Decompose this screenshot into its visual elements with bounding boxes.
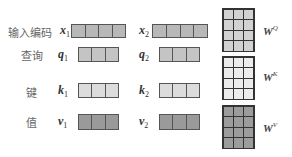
- matrix-wv: [222, 105, 255, 149]
- vector-k1: [78, 83, 119, 98]
- vector-q2: [159, 47, 200, 62]
- vector-x2: [152, 24, 208, 38]
- vector-v1: [78, 114, 119, 130]
- matrix-wq: [222, 8, 255, 52]
- matrix-label-wv: WV: [263, 121, 277, 134]
- var-q2: q2: [139, 47, 149, 63]
- row-label-key: 键: [26, 84, 37, 100]
- var-v1: v1: [58, 114, 67, 130]
- vector-v2: [159, 114, 200, 130]
- vector-k2: [159, 83, 200, 98]
- matrix-label-wq: WQ: [263, 24, 278, 37]
- var-k2: k2: [139, 83, 149, 99]
- row-label-query: 查询: [21, 47, 43, 63]
- row-label-value: 值: [26, 114, 37, 130]
- var-v2: v2: [139, 114, 148, 130]
- matrix-wk: [222, 56, 255, 100]
- row-label-input: 输入编码: [8, 24, 52, 40]
- var-x2: x2: [139, 23, 149, 39]
- vector-q1: [78, 47, 119, 62]
- var-q1: q1: [58, 47, 68, 63]
- var-k1: k1: [58, 83, 68, 99]
- var-x1: x1: [60, 23, 70, 39]
- matrix-label-wk: WK: [263, 70, 277, 83]
- vector-x1: [71, 24, 126, 38]
